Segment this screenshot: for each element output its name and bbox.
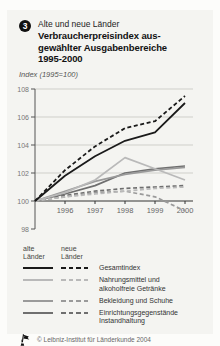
legend-label: Gesamtindex [99,264,195,272]
chart-legend: alte Länder neue Länder GesamtindexNahru… [23,245,203,325]
region-label: Alte und neue Länder [38,19,167,29]
legend-header-neue: neue Länder [61,245,99,261]
legend-swatch-dashed-neue [61,300,91,302]
figure-title-line-3: 1995-2000 [38,53,167,64]
legend-swatch-solid-alte [23,279,53,281]
y-tick-label: 108 [17,86,29,93]
axis-unit-note: Index (1995=100) [19,70,203,79]
legend-swatch-solid-alte [23,300,53,302]
x-tick-label: 1998 [117,206,134,215]
x-tick-label: 1997 [87,206,104,215]
legend-swatch-dashed-neue [61,312,91,314]
figure-number-badge: 3 [19,20,31,32]
figure-footer: © Leibniz-Institut für Länderkunde 2004 [19,333,203,346]
chart-area: 9810010210410610819961997199819992000 [17,81,203,238]
legend-row: Gesamtindex [23,264,203,272]
x-tick-label: 1996 [57,206,74,215]
legend-row: Bekleidung und Schuhe [23,297,203,305]
legend-label: Nahrungsmittel und alkoholfreie Getränke [99,276,195,293]
legend-swatch-solid-alte [23,267,53,269]
legend-label: Einrichtungsgegenstände Instandhaltung [99,309,195,326]
figure-titles: Alte und neue Länder Verbraucherpreisind… [38,19,167,64]
figure-title-line-1: Verbraucherpreisindex aus- [38,30,167,41]
legend-row: Nahrungsmittel und alkoholfreie Getränke [23,276,203,293]
leibniz-institute-logo [19,333,32,346]
legend-swatch-dashed-neue [61,279,91,281]
figure-header: 3 Alte und neue Länder Verbraucherpreisi… [19,19,203,64]
y-tick-label: 106 [17,114,29,121]
y-tick-label: 102 [17,170,29,177]
legend-column-headers: alte Länder neue Länder [23,245,203,261]
legend-rows: GesamtindexNahrungsmittel und alkoholfre… [23,264,203,325]
figure-title-line-2: gewählter Ausgabenbereiche [38,42,167,53]
legend-label: Bekleidung und Schuhe [99,297,195,305]
x-tick-label: 1999 [147,206,164,215]
chart-svg: 9810010210410610819961997199819992000 [17,81,203,234]
figure-card: 3 Alte und neue Länder Verbraucherpreisi… [7,10,213,334]
y-tick-label: 104 [17,142,29,149]
legend-row: Einrichtungsgegenstände Instandhaltung [23,309,203,326]
legend-header-alte: alte Länder [23,245,61,261]
y-tick-label: 100 [17,198,29,205]
legend-swatch-solid-alte [23,312,53,314]
y-tick-label: 98 [21,226,29,233]
copyright-text: © Leibniz-Institut für Länderkunde 2004 [37,336,151,343]
legend-swatch-dashed-neue [61,267,91,269]
